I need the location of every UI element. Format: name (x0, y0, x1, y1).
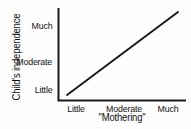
data-series-line (67, 12, 178, 95)
y-axis-title: Child's independence (12, 5, 22, 110)
x-axis-title: "Mothering" (61, 113, 183, 123)
line-chart-figure: Much Moderate Little Little Moderate Muc… (0, 0, 191, 129)
y-tick-label-moderate: Moderate (2, 57, 52, 67)
